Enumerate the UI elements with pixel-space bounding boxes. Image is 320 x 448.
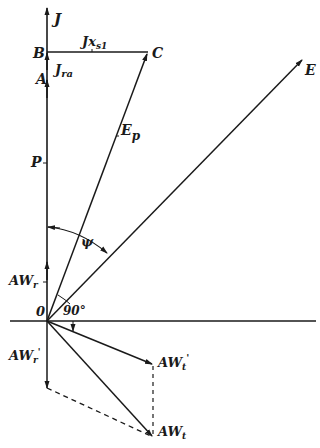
- label-b: B: [32, 45, 45, 61]
- label-c: C: [152, 45, 163, 61]
- awt-prime-vector: [47, 321, 152, 364]
- label-e: E: [304, 62, 316, 78]
- awt-vector: [47, 321, 152, 436]
- label-origin: 0: [36, 304, 45, 319]
- label-ep: Ep: [120, 122, 141, 143]
- ep-vector: [47, 54, 147, 321]
- label-awr-prime: AWr': [7, 347, 41, 365]
- dashed-parallelogram-bottom: [47, 388, 153, 437]
- label-a: A: [34, 71, 47, 87]
- label-awt: AWt: [156, 424, 187, 441]
- label-awr: AWr: [7, 273, 39, 290]
- label-jra: Jra: [52, 62, 73, 79]
- label-90deg: 90°: [63, 304, 86, 318]
- phasor-diagram: J B C Jxs1 A Jra E Ep P ψ AWr 0 90° AWr'…: [0, 0, 320, 448]
- e-vector: [47, 60, 302, 321]
- label-p: P: [30, 154, 42, 170]
- label-j: J: [51, 10, 62, 28]
- label-awt-prime: AWt': [156, 352, 189, 372]
- label-psi: ψ: [81, 234, 94, 249]
- label-jxs1: Jxs1: [79, 34, 107, 51]
